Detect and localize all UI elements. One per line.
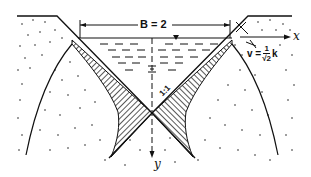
width-label: B = 2 (140, 19, 167, 30)
velocity-prefix: v = (247, 49, 261, 59)
velocity-suffix: k (272, 49, 278, 59)
velocity-numerator: 1 (263, 44, 269, 54)
velocity-denominator: √2 (262, 54, 271, 63)
x-axis-arrow-icon (284, 35, 291, 40)
y-axis-label: y (154, 158, 161, 170)
water-dashes (100, 44, 218, 70)
seepage-diagram: B = 2 x y 1:1 v = 1 √2 k (0, 0, 311, 177)
left-hatched-band (72, 40, 152, 157)
soil-stipple (17, 19, 295, 166)
left-seepage-curve (26, 44, 72, 155)
right-hatched-band (152, 40, 232, 157)
velocity-label: v = 1 √2 k (247, 44, 278, 63)
velocity-fraction: 1 √2 (262, 44, 271, 63)
x-axis-label: x (293, 30, 300, 42)
